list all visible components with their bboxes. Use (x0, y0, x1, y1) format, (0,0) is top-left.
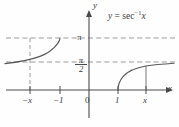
plot-canvas (0, 0, 179, 127)
y-axis-arrow (86, 10, 92, 17)
function-label: y = sec−1x (108, 10, 146, 22)
y-tick-label-pi-over-2: π 2 (75, 56, 87, 74)
function-label-fn: sec (122, 11, 134, 21)
y-axis-label: y (93, 1, 97, 10)
x-tick-label-zero: 0 (85, 96, 90, 105)
x-tick-label-minus-x: −x (22, 96, 32, 105)
sec-inverse-graph-figure: y = sec−1x y x π π 2 −x −1 0 1 x (0, 0, 179, 127)
curve-left-branch (5, 38, 60, 64)
function-label-arg: x (141, 11, 145, 21)
x-tick-label-one: 1 (115, 96, 120, 105)
y-tick-pi-over-2-numerator: π (75, 56, 87, 64)
function-label-equals: = (115, 11, 120, 21)
y-tick-pi-over-2-denominator: 2 (75, 64, 87, 74)
y-tick-label-pi: π (77, 33, 82, 42)
x-tick-label-x: x (143, 96, 147, 105)
x-axis-label: x (168, 84, 172, 93)
function-label-lhs: y (108, 11, 112, 21)
x-tick-label-minus-1: −1 (53, 96, 64, 105)
